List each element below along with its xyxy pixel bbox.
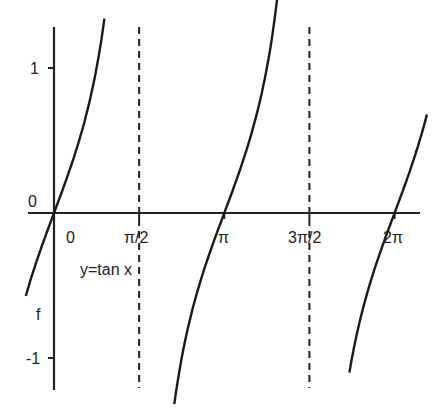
x-tick-label: π	[218, 229, 229, 246]
tan-branch	[174, 0, 277, 404]
x-tick-label: 0	[66, 229, 75, 246]
x-tick-label: 3π/2	[288, 229, 321, 246]
y-tick-label: -1	[26, 350, 40, 367]
tan-chart: 10-10π/2π3π/22π y=tan x f	[0, 0, 440, 411]
x-tick-label: 2π	[383, 229, 403, 246]
y-axis-label: f	[36, 306, 41, 323]
function-label: y=tan x	[80, 261, 132, 278]
tan-curves	[26, 0, 427, 404]
y-tick-label: 1	[30, 60, 39, 77]
axes	[28, 27, 420, 390]
y-tick-label: 0	[28, 193, 37, 210]
x-tick-label: π/2	[124, 229, 148, 246]
